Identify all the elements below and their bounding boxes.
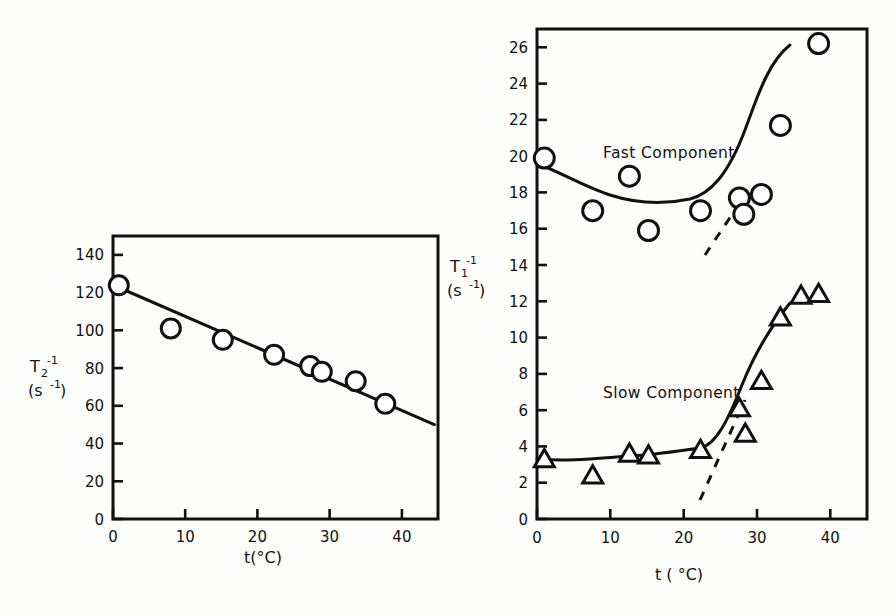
- data-point: [109, 276, 128, 295]
- fast-solid-curve: [537, 45, 790, 202]
- right-y-axis-title-sup: -1: [466, 254, 477, 267]
- data-point: [161, 319, 180, 338]
- right-panel: 0 2 4 6 8 10 12 14 16 18 20 22 24 26: [447, 29, 867, 584]
- right-x-ticklabel-20: 20: [674, 529, 693, 547]
- left-y-ticklabel-120: 120: [75, 284, 104, 302]
- left-x-ticklabel-0: 0: [108, 528, 118, 546]
- data-point: [770, 308, 790, 325]
- left-panel-x-axis-title: t(°C): [244, 548, 282, 567]
- right-x-ticklabel-0: 0: [532, 529, 542, 547]
- right-panel-fast-points: [534, 34, 828, 241]
- right-panel-x-axis-title: t ( °C): [655, 565, 703, 584]
- left-x-ticklabel-10: 10: [176, 528, 195, 546]
- left-panel-frame: [113, 236, 438, 519]
- right-y-ticklabel-26: 26: [509, 39, 528, 57]
- data-point: [619, 166, 639, 186]
- left-y-axis-title-sup: -1: [47, 354, 58, 367]
- figure-svg: 0 20 40 60 80 100 120 140 0 10 20: [0, 0, 896, 615]
- right-panel-y-ticklabels: 0 2 4 6 8 10 12 14 16 18 20 22 24 26: [509, 39, 528, 529]
- right-y-ticklabel-6: 6: [518, 402, 528, 420]
- left-y-axis-title-sub: 2: [41, 367, 48, 380]
- right-y-ticklabel-12: 12: [509, 293, 528, 311]
- left-y-ticklabel-40: 40: [85, 435, 104, 453]
- right-y-ticklabel-22: 22: [509, 111, 528, 129]
- right-y-ticklabel-10: 10: [509, 329, 528, 347]
- left-y-ticklabel-80: 80: [85, 360, 104, 378]
- data-point: [265, 345, 284, 364]
- left-y-axis-title-s: (s: [28, 381, 43, 400]
- right-y-ticklabel-0: 0: [518, 511, 528, 529]
- data-point: [770, 115, 790, 135]
- right-panel-x-ticklabels: 0 10 20 30 40: [532, 529, 840, 547]
- fast-component-label: Fast Component: [603, 144, 735, 162]
- left-y-axis-title-close: ): [60, 381, 66, 400]
- left-panel-x-ticklabels: 0 10 20 30 40: [108, 528, 411, 546]
- left-y-ticklabel-20: 20: [85, 473, 104, 491]
- left-panel: 0 20 40 60 80 100 120 140 0 10 20: [28, 236, 438, 567]
- data-point: [583, 201, 603, 221]
- right-y-ticklabel-16: 16: [509, 220, 528, 238]
- right-x-axis-title: t ( °C): [655, 565, 703, 584]
- data-point: [751, 371, 771, 388]
- data-point: [312, 362, 331, 381]
- left-panel-y-axis-title: T 2 -1 (s -1 ): [28, 354, 66, 400]
- left-x-ticklabel-30: 30: [320, 528, 339, 546]
- left-panel-y-ticklabels: 0 20 40 60 80 100 120 140: [75, 246, 104, 528]
- right-x-ticklabel-30: 30: [747, 529, 766, 547]
- slow-component-label: Slow Component: [603, 384, 740, 402]
- left-y-ticklabel-100: 100: [75, 322, 104, 340]
- right-y-ticklabel-2: 2: [518, 474, 528, 492]
- data-point: [534, 148, 554, 168]
- right-y-axis-title-T: T: [449, 257, 460, 276]
- data-point: [735, 424, 755, 441]
- left-x-ticklabel-20: 20: [248, 528, 267, 546]
- data-point: [639, 221, 659, 241]
- data-point: [734, 204, 754, 224]
- data-point: [213, 330, 232, 349]
- data-point: [751, 184, 771, 204]
- right-y-ticklabel-20: 20: [509, 148, 528, 166]
- data-point: [619, 444, 639, 461]
- right-y-ticklabel-14: 14: [509, 257, 528, 275]
- right-y-ticklabel-8: 8: [518, 365, 528, 383]
- right-x-ticklabel-40: 40: [821, 529, 840, 547]
- right-y-ticklabel-18: 18: [509, 184, 528, 202]
- data-point: [346, 372, 365, 391]
- right-panel-y-axis-title: T 1 -1 (s -1 ): [447, 254, 485, 300]
- figure-root: 0 20 40 60 80 100 120 140 0 10 20: [0, 0, 896, 615]
- data-point: [691, 201, 711, 221]
- left-y-axis-title-T: T: [29, 357, 40, 376]
- right-y-axis-title-sub: 1: [461, 267, 468, 280]
- data-point: [809, 284, 829, 301]
- right-y-ticklabel-24: 24: [509, 75, 528, 93]
- right-y-ticklabel-4: 4: [518, 438, 528, 456]
- data-point: [809, 34, 829, 54]
- right-y-axis-title-close: ): [479, 281, 485, 300]
- left-y-ticklabel-60: 60: [85, 397, 104, 415]
- left-x-axis-title-t: t(°C): [244, 548, 282, 567]
- left-x-ticklabel-40: 40: [392, 528, 411, 546]
- right-x-ticklabel-10: 10: [601, 529, 620, 547]
- right-y-axis-title-s: (s: [447, 281, 462, 300]
- left-y-ticklabel-0: 0: [94, 511, 104, 529]
- data-point: [583, 466, 603, 483]
- data-point: [376, 394, 395, 413]
- left-y-ticklabel-140: 140: [75, 246, 104, 264]
